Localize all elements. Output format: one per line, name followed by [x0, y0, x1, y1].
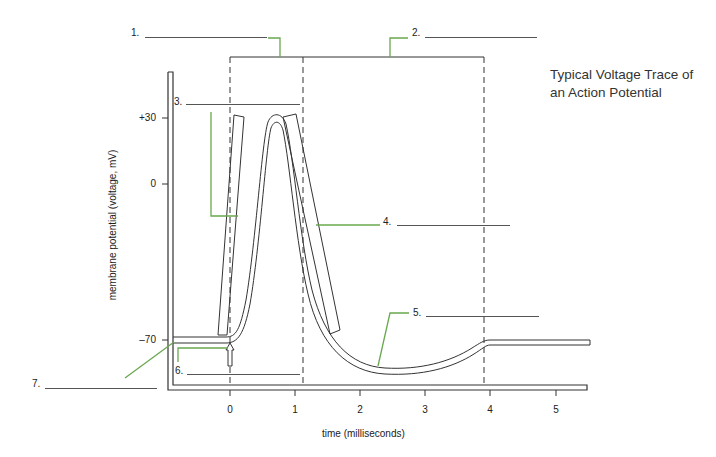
dashed-guides: [230, 57, 484, 385]
blank-4-field[interactable]: [397, 225, 510, 226]
title-line-2: an Action Potential: [550, 84, 693, 102]
voltage-trace: [173, 115, 590, 375]
blank-1-field[interactable]: [145, 37, 267, 38]
blank-6-field[interactable]: [187, 374, 300, 375]
blank-3-field[interactable]: [186, 104, 300, 105]
y-tick-label: –70: [126, 334, 156, 345]
x-tick-label: 2: [353, 404, 367, 415]
blank-2-field[interactable]: [425, 37, 537, 38]
x-tick-label: 3: [418, 404, 432, 415]
y-axis-label: membrane potential (voltage, mV): [107, 150, 118, 301]
y-tick-label: 0: [126, 178, 156, 189]
blank-7-field[interactable]: [45, 388, 157, 389]
blank-6-number: 6.: [175, 365, 183, 376]
blank-4-number: 4.: [383, 216, 391, 227]
diagram-title: Typical Voltage Trace of an Action Poten…: [550, 66, 693, 102]
blank-3-number: 3.: [174, 96, 182, 107]
title-line-1: Typical Voltage Trace of: [550, 66, 693, 84]
blank-2-number: 2.: [412, 27, 420, 38]
stimulus-arrow-icon: [226, 343, 234, 366]
blank-5-field[interactable]: [426, 316, 539, 317]
y-ticks: [162, 118, 168, 340]
x-ticks: [230, 390, 556, 396]
x-tick-label: 4: [483, 404, 497, 415]
x-axis-label: time (milliseconds): [322, 428, 405, 439]
x-tick-label: 0: [223, 404, 237, 415]
x-tick-label: 1: [288, 404, 302, 415]
blank-5-number: 5.: [413, 307, 421, 318]
blank-1-number: 1.: [131, 27, 139, 38]
x-tick-label: 5: [549, 404, 563, 415]
blank-7-number: 7.: [32, 378, 40, 389]
y-tick-label: +30: [126, 112, 156, 123]
